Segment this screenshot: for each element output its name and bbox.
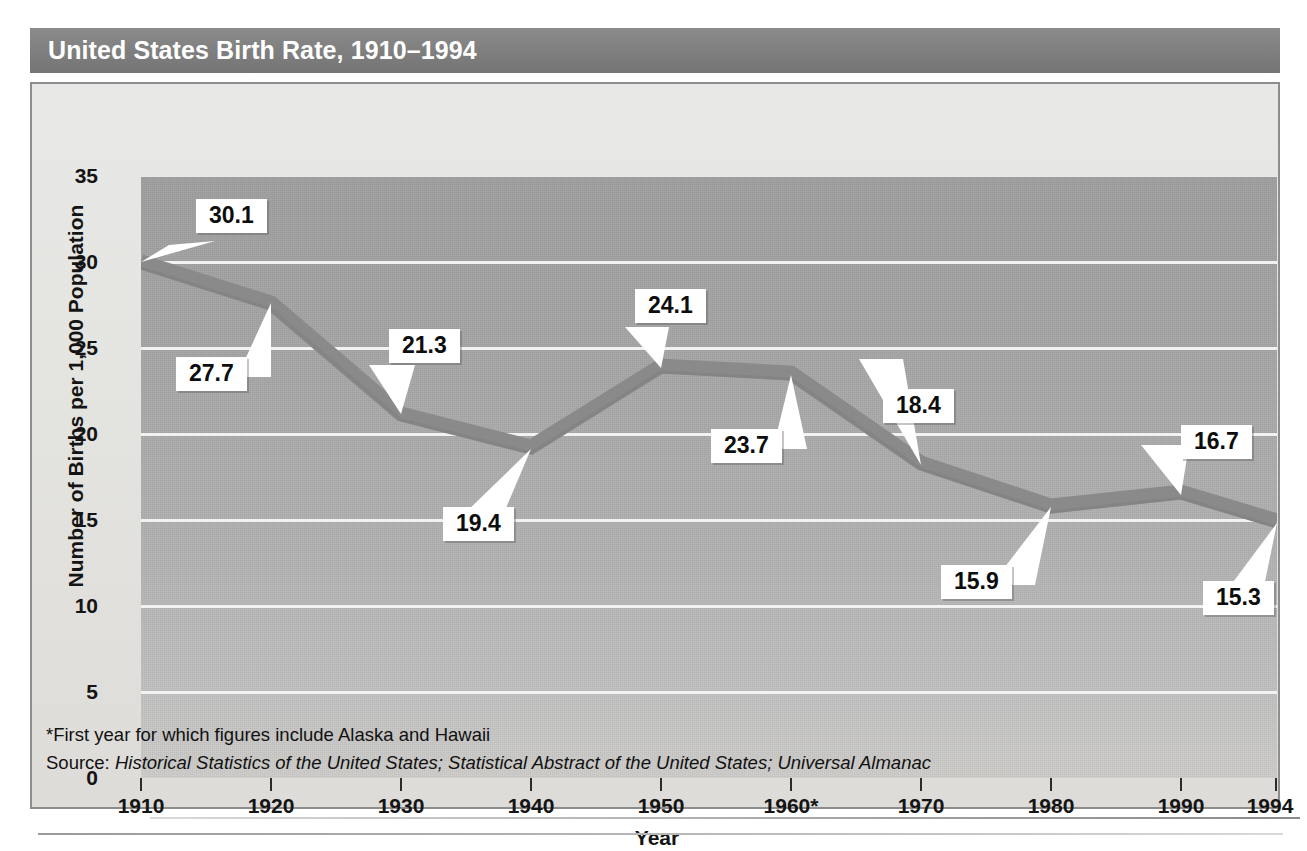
x-tick-label-1930: 1930 — [341, 794, 461, 818]
x-tick-label-1994: 1994 — [1210, 794, 1307, 818]
value-label-1910: 30.1 — [196, 199, 267, 233]
footnote-asterisk: *First year for which figures include Al… — [46, 724, 490, 746]
birth-rate-figure: United States Birth Rate, 1910–1994 Numb… — [0, 0, 1307, 851]
value-label-1950: 24.1 — [635, 289, 706, 323]
x-tick-label-1960: 1960* — [731, 794, 851, 818]
x-tick-mark-1960 — [790, 778, 792, 791]
value-label-1980: 15.9 — [941, 565, 1012, 599]
chart-title-bar: United States Birth Rate, 1910–1994 — [30, 28, 1280, 73]
value-label-1970: 18.4 — [883, 389, 954, 423]
y-tick-label-15: 15 — [38, 508, 98, 532]
x-tick-mark-1940 — [530, 778, 532, 791]
value-label-1994: 15.3 — [1203, 581, 1274, 615]
x-tick-label-1940: 1940 — [471, 794, 591, 818]
x-tick-mark-1930 — [400, 778, 402, 791]
callout-tail-1930 — [369, 365, 415, 414]
callout-tail-1950 — [625, 327, 669, 368]
x-tick-mark-1980 — [1050, 778, 1052, 791]
value-label-1920: 27.7 — [176, 357, 247, 391]
bottom-divider-upper — [150, 817, 1300, 819]
callout-tails — [141, 177, 1277, 778]
value-label-1930: 21.3 — [389, 329, 460, 363]
bottom-divider-lower — [38, 833, 1283, 835]
x-tick-label-1950: 1950 — [601, 794, 721, 818]
y-tick-label-35: 35 — [38, 164, 98, 188]
value-label-1960: 23.7 — [711, 429, 782, 463]
page-title: United States Birth Rate, 1910–1994 — [48, 36, 477, 65]
x-tick-mark-1950 — [660, 778, 662, 791]
callout-tail-1940 — [463, 449, 531, 515]
y-axis-title: Number of Births per 1,000 Population — [64, 136, 88, 656]
x-tick-label-1920: 1920 — [211, 794, 331, 818]
value-label-1990: 16.7 — [1181, 425, 1252, 459]
callout-tail-1910 — [141, 241, 215, 262]
y-tick-label-5: 5 — [38, 680, 98, 704]
source-text: Historical Statistics of the United Stat… — [115, 752, 931, 773]
y-tick-label-30: 30 — [38, 250, 98, 274]
x-tick-label-1980: 1980 — [991, 794, 1111, 818]
x-axis-title: Year — [32, 826, 1282, 850]
y-tick-label-25: 25 — [38, 336, 98, 360]
x-tick-mark-1920 — [270, 778, 272, 791]
x-tick-label-1910: 1910 — [81, 794, 201, 818]
x-tick-mark-1994 — [1275, 778, 1277, 791]
x-tick-label-1970: 1970 — [861, 794, 981, 818]
chart-panel: Number of Births per 1,000 Population 35… — [30, 82, 1280, 809]
plot-area: 30.1 27.7 21.3 19.4 24.1 23.7 18.4 15.9 … — [141, 177, 1277, 778]
x-tick-mark-1970 — [920, 778, 922, 791]
x-tick-mark-1910 — [140, 778, 142, 791]
y-tick-label-20: 20 — [38, 422, 98, 446]
y-tick-label-10: 10 — [38, 594, 98, 618]
source-label: Source: — [46, 752, 115, 773]
value-label-1940: 19.4 — [443, 507, 514, 541]
footnote-source: Source: Historical Statistics of the Uni… — [46, 752, 931, 774]
x-tick-mark-1990 — [1180, 778, 1182, 791]
